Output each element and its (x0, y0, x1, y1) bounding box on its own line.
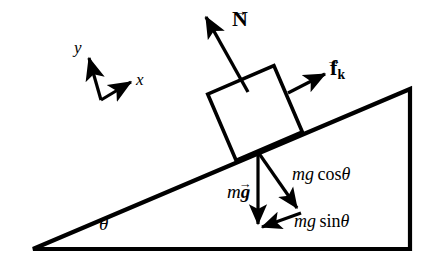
normal-component-mass-symbol: m (292, 164, 305, 184)
parallel-component-mass-symbol: m (294, 211, 307, 231)
parallel-component-gravity-symbol: g (307, 211, 316, 231)
friction-force-vector (288, 74, 325, 93)
vector-accent-icon: → (239, 178, 252, 191)
inclined-plane-figure: → N → f k y x m → g mgcosθ mgsinθ θ (0, 0, 431, 261)
weight-label: m → g (227, 182, 250, 201)
friction-force-arrow (288, 74, 325, 93)
parallel-component-label: mgsinθ (294, 212, 349, 230)
axis-y-label: y (74, 39, 82, 56)
vector-accent-icon: → (326, 52, 341, 67)
axis-x-arrow (101, 82, 131, 100)
axis-x-label: x (136, 71, 144, 88)
normal-component-theta-symbol: θ (342, 164, 351, 184)
axis-y-arrow (89, 58, 101, 100)
friction-force-subscript: k (338, 67, 346, 82)
sine-operator: sin (320, 211, 341, 231)
incline-angle-label: θ (99, 214, 108, 233)
normal-force-label: → N (232, 8, 248, 30)
vector-accent-icon: → (232, 3, 247, 18)
normal-component-label: mgcosθ (292, 165, 350, 183)
parallel-component-theta-symbol: θ (341, 211, 350, 231)
cosine-operator: cos (318, 164, 342, 184)
friction-force-label: → f k (330, 57, 345, 81)
normal-component-gravity-symbol: g (305, 164, 314, 184)
coordinate-axes (89, 58, 131, 100)
diagram-canvas (0, 0, 431, 261)
